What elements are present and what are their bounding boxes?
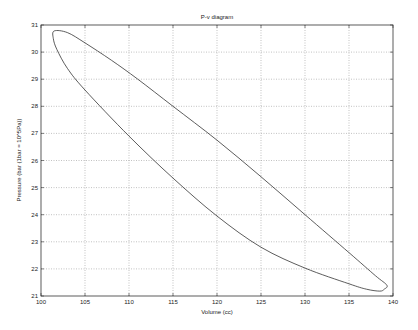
y-tick-label: 23 [31,239,38,245]
y-tick-label: 25 [31,185,38,191]
x-tick-label: 120 [212,299,223,305]
grid-lines [41,25,393,296]
pv-loop-curve [53,30,388,291]
y-tick-label: 21 [31,293,38,299]
chart-title: P-v diagram [201,14,233,20]
x-tick-label: 140 [388,299,399,305]
y-tick-label: 29 [31,76,38,82]
x-axis-ticks: 100105110115120125130135140 [36,25,399,305]
x-tick-label: 135 [344,299,355,305]
x-tick-label: 125 [256,299,267,305]
y-tick-label: 30 [31,49,38,55]
y-tick-label: 24 [31,212,38,218]
x-tick-label: 110 [124,299,134,305]
pv-diagram-chart: P-v diagram 100105110115120125130135140 … [0,0,418,330]
x-tick-label: 130 [300,299,311,305]
y-tick-label: 31 [31,22,38,28]
y-tick-label: 26 [31,158,38,164]
y-axis-label: Pressure (bar (1bar = 10^5Pa)) [16,118,22,201]
x-axis-label: Volume (cc) [201,309,233,315]
x-tick-label: 105 [80,299,91,305]
y-tick-label: 28 [31,103,38,109]
y-tick-label: 22 [31,266,38,272]
x-tick-label: 100 [36,299,47,305]
x-tick-label: 115 [168,299,178,305]
y-tick-label: 27 [31,130,38,136]
